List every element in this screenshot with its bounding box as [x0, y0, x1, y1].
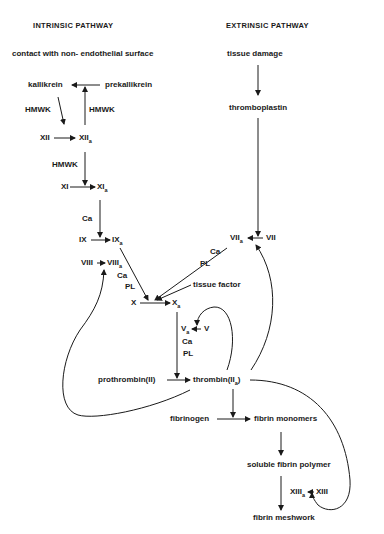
thrombin-node: thrombin(IIa) [193, 376, 241, 386]
intrinsic-pathway-header: INTRINSIC PATHWAY [33, 22, 113, 30]
factor-xia-node: XIa [97, 183, 108, 193]
fibrin-meshwork-node: fibrin meshwork [253, 514, 315, 522]
factor-va-node: Va [181, 325, 189, 335]
contact-surface-label: contact with non- endothelial surface [12, 50, 153, 58]
phospholipid-label: PL [200, 260, 210, 268]
hmwk-label: HMWK [25, 106, 51, 114]
calcium-label: Ca [182, 338, 192, 346]
factor-xii-node: XII [40, 134, 50, 142]
factor-xiia-node: XIIa [79, 134, 92, 144]
tissue-damage-label: tissue damage [227, 50, 283, 58]
factor-v-node: V [204, 325, 209, 333]
fibrin-monomers-node: fibrin monomers [254, 415, 317, 423]
factor-xiii-node: XIII [316, 488, 328, 496]
calcium-label: Ca [82, 215, 92, 223]
factor-ixa-node: IXa [112, 236, 123, 246]
factor-ix-node: IX [79, 236, 87, 244]
factor-xiiia-node: XIIIa [290, 488, 305, 498]
calcium-label: Ca [210, 248, 220, 256]
hmwk-label: HMWK [89, 106, 115, 114]
factor-xi-node: XI [61, 183, 69, 191]
phospholipid-label: PL [183, 350, 193, 358]
factor-vii-node: VII [266, 234, 276, 242]
soluble-fibrin-polymer-node: soluble fibrin polymer [247, 461, 331, 469]
thromboplastin-node: thromboplastin [229, 104, 287, 112]
hmwk-label: HMWK [52, 161, 78, 169]
phospholipid-label: PL [125, 283, 135, 291]
factor-x-node: X [131, 299, 136, 307]
tissue-factor-label: tissue factor [193, 281, 241, 289]
factor-viia-node: VIIa [230, 234, 243, 244]
factor-viii-node: VIII [81, 259, 93, 267]
prekallikrein-node: prekallikrein [105, 81, 152, 89]
extrinsic-pathway-header: EXTRINSIC PATHWAY [226, 22, 309, 30]
factor-viiia-node: VIIIa [107, 259, 122, 269]
kallikrein-node: kallikrein [28, 81, 63, 89]
calcium-label: Ca [117, 272, 127, 280]
factor-xa-node: Xa [172, 299, 180, 309]
prothrombin-node: prothrombin(II) [98, 376, 155, 384]
fibrinogen-node: fibrinogen [170, 415, 209, 423]
